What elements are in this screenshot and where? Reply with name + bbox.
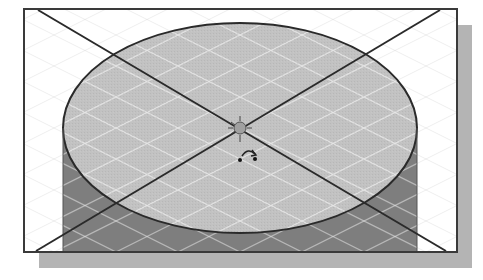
cylinder-viewport-diagram xyxy=(0,0,483,280)
